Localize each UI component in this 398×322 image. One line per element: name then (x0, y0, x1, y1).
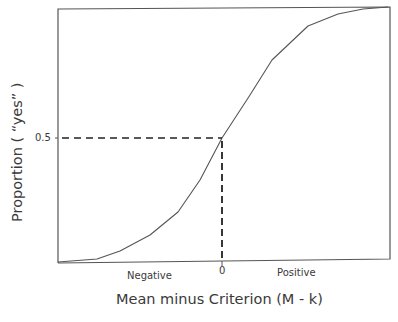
y-tick-label: 0.5 (35, 132, 51, 143)
y-axis-title: Proportion ( “yes” ) (9, 82, 25, 222)
chart-canvas (0, 0, 398, 322)
negative-region-label: Negative (127, 270, 172, 281)
psychometric-curve (58, 7, 388, 262)
x-tick-label: 0 (219, 265, 225, 276)
positive-region-label: Positive (277, 267, 316, 278)
x-axis-title: Mean minus Criterion (M - k) (116, 291, 323, 307)
